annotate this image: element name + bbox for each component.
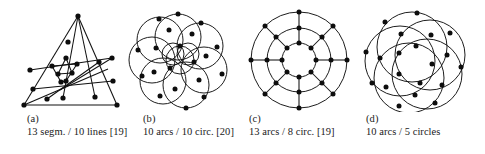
graph-node [173, 87, 178, 92]
graph-node [263, 92, 268, 97]
drawing-b-svg [118, 2, 239, 112]
figure-panel-row: (a) 13 segm. / 10 lines [19] [0, 0, 485, 154]
graph-node [413, 93, 418, 98]
graph-node [297, 10, 302, 15]
graph-node [30, 86, 35, 91]
graph-node [345, 58, 350, 63]
graph-node [397, 51, 402, 56]
drawing-d-svg [356, 2, 477, 112]
graph-node [285, 46, 290, 51]
graph-node [459, 65, 464, 70]
graph-node [309, 70, 314, 75]
drawing-d-five-circle-rosette [356, 2, 477, 112]
graph-node [75, 13, 80, 18]
drawing-a-straight-line-triangle [0, 2, 121, 112]
graph-node [297, 41, 302, 46]
graph-node [55, 71, 60, 76]
graph-node [58, 79, 63, 84]
graph-node [110, 78, 115, 83]
graph-node [49, 63, 54, 68]
graph-node [384, 85, 389, 90]
graph-node [448, 31, 453, 36]
drawing-c-svg [236, 2, 357, 112]
graph-node [215, 45, 220, 50]
graph-node [415, 11, 420, 16]
graph-node [184, 106, 189, 111]
graph-node [197, 78, 202, 83]
graph-node [154, 46, 159, 51]
graph-node [297, 75, 302, 80]
graph-node [63, 78, 68, 83]
graph-node [309, 46, 314, 51]
graph-node [178, 44, 183, 49]
graph-node [429, 33, 434, 38]
graph-node [265, 58, 270, 63]
drawing-b-circles [129, 14, 227, 108]
graph-node [383, 20, 388, 25]
graph-node [157, 17, 162, 22]
graph-node [96, 59, 101, 64]
graph-node [263, 24, 268, 29]
graph-node [285, 70, 290, 75]
graph-node [433, 101, 438, 106]
graph-node [320, 81, 325, 86]
graph-node [74, 61, 79, 66]
graph-node [297, 90, 302, 95]
graph-node [331, 92, 336, 97]
graph-node [190, 32, 195, 37]
graph-node [418, 81, 423, 86]
graph-node [158, 94, 163, 99]
graph-node [430, 62, 435, 67]
graph-node [168, 66, 173, 71]
graph-node [399, 32, 404, 37]
caption-d: (d) 10 arcs / 5 circles [366, 113, 485, 139]
graph-node [60, 95, 65, 100]
caption-text-d: 10 arcs / 5 circles [366, 126, 485, 138]
figure-panel-a: (a) 13 segm. / 10 lines [19] [0, 0, 121, 154]
graph-node [445, 53, 450, 58]
graph-node [314, 58, 319, 63]
graph-node [280, 58, 285, 63]
graph-node [274, 35, 279, 40]
drawing-b-circle-rosette [118, 2, 239, 112]
graph-node [204, 54, 209, 59]
graph-node [274, 81, 279, 86]
graph-node [364, 50, 369, 55]
graph-node [331, 24, 336, 29]
graph-node [320, 35, 325, 40]
graph-node [21, 102, 26, 107]
graph-node [202, 95, 207, 100]
graph-node [140, 74, 145, 79]
graph-node [136, 48, 141, 53]
graph-node [92, 94, 97, 99]
graph-node [109, 55, 114, 60]
figure-panel-b: (b) 10 arcs / 10 circ. [20] [118, 0, 239, 154]
graph-node [220, 72, 225, 77]
drawing-c-concentric-rings [236, 2, 357, 112]
graph-node [249, 58, 254, 63]
graph-node [27, 67, 32, 72]
graph-node [69, 70, 74, 75]
graph-node [192, 60, 197, 65]
graph-node [397, 72, 402, 77]
figure-panel-d: (d) 10 arcs / 5 circles [356, 0, 477, 154]
graph-node [199, 21, 204, 26]
graph-node [44, 96, 49, 101]
figure-panel-c: (c) 13 arcs / 8 circ. [19] [236, 0, 357, 154]
caption-label-d: (d) [366, 113, 485, 125]
graph-node [152, 70, 157, 75]
graph-node [63, 55, 68, 60]
graph-node [65, 39, 70, 44]
graph-node [397, 104, 402, 109]
graph-node [414, 44, 419, 49]
graph-node [440, 83, 445, 88]
graph-node [378, 56, 383, 61]
graph-node [297, 26, 302, 31]
drawing-a-svg [0, 2, 121, 112]
graph-node [167, 28, 172, 33]
graph-node [176, 12, 181, 17]
graph-node [370, 81, 375, 86]
drawing-a-edges [24, 16, 117, 105]
graph-node [297, 106, 302, 111]
graph-node [329, 58, 334, 63]
